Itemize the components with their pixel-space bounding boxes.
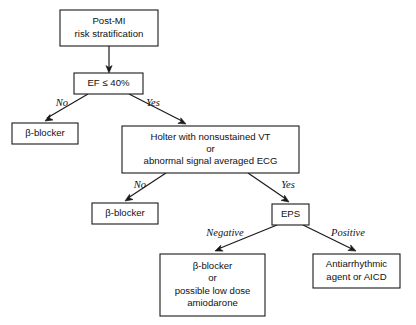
holter-ecg-node-line-0: Holter with nonsustained VT (151, 131, 271, 142)
beta-blocker-amiodarone-node-line-2: possible low dose (175, 285, 251, 296)
edge-label-negative-eps: Negative (205, 227, 244, 238)
post-mi-risk-stratification-node: Post-MIrisk stratification (60, 10, 158, 46)
edge-post-mi-to-ef (106, 46, 112, 73)
beta-blocker-node-middle-line-0: β-blocker (105, 207, 145, 218)
ef-decision-node-line-0: EF ≤ 40% (87, 77, 130, 88)
eps-node: EPS (272, 204, 309, 225)
edge-label-no-holter: No (133, 179, 146, 190)
holter-ecg-node: Holter with nonsustained VTorabnormal si… (122, 126, 299, 173)
beta-blocker-amiodarone-node-line-3: amiodarone (187, 297, 238, 308)
post-mi-risk-stratification-node-line-0: Post-MI (92, 15, 125, 26)
nodes-layer: Post-MIrisk stratificationEF ≤ 40%β-bloc… (12, 10, 400, 316)
ef-decision-node: EF ≤ 40% (74, 73, 143, 94)
holter-ecg-node-line-1: or (206, 143, 215, 154)
eps-node-line-0: EPS (281, 208, 300, 219)
edge-eps-negative-to-beta-blocker-amiodarone-arrowhead (214, 245, 223, 254)
holter-ecg-node-line-2: abnormal signal averaged ECG (144, 155, 278, 166)
edge-label-yes-ef: Yes (146, 97, 160, 108)
edge-label-positive-eps: Positive (330, 227, 365, 238)
beta-blocker-amiodarone-node-line-0: β-blocker (193, 260, 233, 271)
antiarrhythmic-aicd-node-line-1: agent or AICD (326, 271, 386, 282)
beta-blocker-node-left-line-0: β-blocker (25, 127, 65, 138)
beta-blocker-node-middle: β-blocker (92, 203, 158, 224)
beta-blocker-amiodarone-node: β-blockerorpossible low doseamiodarone (160, 254, 265, 316)
beta-blocker-node-left: β-blocker (12, 123, 78, 144)
edge-label-no-ef: No (55, 97, 68, 108)
flowchart-canvas: Post-MIrisk stratificationEF ≤ 40%β-bloc… (0, 0, 416, 325)
antiarrhythmic-aicd-node: Antiarrhythmicagent or AICD (313, 254, 400, 288)
edge-label-yes-holter: Yes (281, 179, 295, 190)
antiarrhythmic-aicd-node-line-0: Antiarrhythmic (326, 258, 388, 269)
post-mi-risk-stratification-node-line-1: risk stratification (75, 28, 144, 39)
edge-eps-positive-to-antiarrhythmic-arrowhead (348, 245, 357, 254)
flowchart-diagram: Post-MIrisk stratificationEF ≤ 40%β-bloc… (0, 0, 416, 325)
beta-blocker-amiodarone-node-line-1: or (208, 272, 217, 283)
